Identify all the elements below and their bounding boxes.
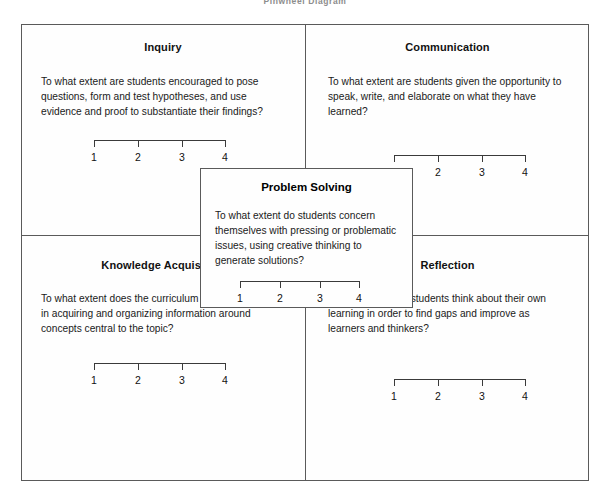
center-box-body: To what extent do students concern thems… — [215, 208, 398, 268]
scale-label-3[interactable]: 3 — [475, 390, 489, 402]
scale-tick-4 — [359, 281, 360, 288]
scale-bar — [240, 281, 360, 282]
scale-label-3[interactable]: 3 — [175, 374, 189, 386]
scale-tick-1 — [394, 155, 395, 162]
scale-label-2[interactable]: 2 — [431, 390, 445, 402]
quadrant-communication-heading: Communication — [306, 41, 589, 53]
scale-bar — [94, 140, 226, 141]
scale-tick-4 — [525, 379, 526, 386]
scale-tick-2 — [438, 155, 439, 162]
scale-label-4[interactable]: 4 — [218, 151, 232, 163]
scale-tick-1 — [94, 363, 95, 370]
quadrant-inquiry-body: To what extent are students encouraged t… — [41, 74, 285, 119]
scale-label-1[interactable]: 1 — [387, 390, 401, 402]
scale-label-3[interactable]: 3 — [475, 166, 489, 178]
scale-tick-2 — [280, 281, 281, 288]
scale-label-4[interactable]: 4 — [518, 166, 532, 178]
scale-tick-2 — [438, 379, 439, 386]
scale-bar — [94, 363, 226, 364]
scale-label-3[interactable]: 3 — [313, 292, 327, 304]
scale-tick-4 — [225, 363, 226, 370]
scale-label-2[interactable]: 2 — [131, 151, 145, 163]
scale-label-4[interactable]: 4 — [352, 292, 366, 304]
rating-scale-communication[interactable]: 1 2 3 4 — [394, 155, 526, 185]
scale-tick-2 — [138, 140, 139, 147]
scale-tick-2 — [138, 363, 139, 370]
scale-label-2[interactable]: 2 — [131, 374, 145, 386]
scale-tick-3 — [482, 379, 483, 386]
rating-scale-knowledge-acquisition[interactable]: 1 2 3 4 — [94, 363, 226, 393]
rating-scale-reflection[interactable]: 1 2 3 4 — [394, 379, 526, 409]
center-box-heading: Problem Solving — [201, 181, 412, 193]
scale-tick-4 — [225, 140, 226, 147]
scale-tick-1 — [94, 140, 95, 147]
scale-tick-3 — [320, 281, 321, 288]
scale-label-3[interactable]: 3 — [175, 151, 189, 163]
scale-label-4[interactable]: 4 — [518, 390, 532, 402]
quadrant-inquiry-heading: Inquiry — [21, 41, 305, 53]
scale-tick-4 — [525, 155, 526, 162]
scale-tick-3 — [482, 155, 483, 162]
scale-label-1[interactable]: 1 — [87, 374, 101, 386]
scale-tick-1 — [240, 281, 241, 288]
scale-label-2[interactable]: 2 — [273, 292, 287, 304]
scale-label-4[interactable]: 4 — [218, 374, 232, 386]
scale-label-1[interactable]: 1 — [87, 151, 101, 163]
page-title-text: Pinwheel Diagram — [0, 0, 610, 5]
scale-tick-3 — [182, 363, 183, 370]
quadrant-communication-body: To what extent are students given the op… — [328, 74, 569, 119]
rating-scale-problem-solving[interactable]: 1 2 3 4 — [240, 281, 360, 311]
scale-label-2[interactable]: 2 — [431, 166, 445, 178]
scale-tick-3 — [182, 140, 183, 147]
center-box-problem-solving: Problem Solving To what extent do studen… — [200, 168, 413, 308]
rating-scale-inquiry[interactable]: 1 2 3 4 — [94, 140, 226, 170]
scale-bar — [394, 155, 526, 156]
page-title: Pinwheel Diagram — [0, 0, 610, 6]
scale-bar — [394, 379, 526, 380]
scale-label-1[interactable]: 1 — [233, 292, 247, 304]
scale-tick-1 — [394, 379, 395, 386]
